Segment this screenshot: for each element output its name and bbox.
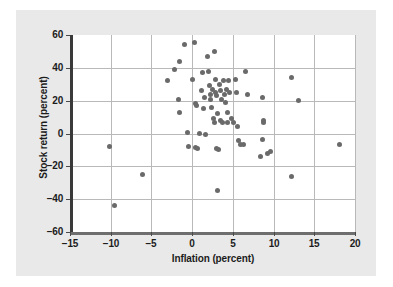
x-axis-tick-label: −10 [94,238,128,249]
data-point [258,154,263,159]
data-point [234,90,239,95]
y-axis-tick [66,68,70,69]
data-point [203,132,208,137]
x-axis-tick [233,232,234,236]
y-axis-tick [66,35,70,36]
data-point [245,92,250,97]
y-axis-tick-label: −60 [30,226,63,237]
data-point [223,100,228,105]
y-axis-tick [66,199,70,200]
y-axis-tick [66,232,70,233]
data-point [190,77,195,82]
data-point [197,131,202,136]
x-axis-tick [192,232,193,236]
data-point [213,77,218,82]
data-point [177,110,182,115]
y-axis-tick-label: −20 [30,160,63,171]
y-axis-tick-label: 0 [30,128,63,139]
data-point [226,78,231,83]
data-point [260,95,265,100]
x-axis-label: Inflation (percent) [70,253,356,264]
x-axis-tick [151,232,152,236]
data-point [289,174,294,179]
data-point [186,144,191,149]
x-axis-tick-label: 0 [175,238,209,249]
scatter-chart: Inflation (percent) Stock return (percen… [16,10,376,276]
data-point [233,77,238,82]
x-axis-tick [111,232,112,236]
data-point [208,92,213,97]
x-axis-tick [355,232,356,236]
data-point [205,54,210,59]
data-point [296,98,301,103]
y-axis-tick-label: 20 [30,95,63,106]
data-point [227,90,232,95]
y-axis-tick [66,101,70,102]
data-point [182,42,187,47]
data-point [140,172,145,177]
data-point [202,95,207,100]
x-axis-tick-label: 15 [297,238,331,249]
data-point [235,124,240,129]
data-point [216,147,221,152]
data-point [112,203,117,208]
data-point [212,120,217,125]
gridline-horizontal [70,68,355,69]
data-point [241,142,246,147]
x-axis-tick-label: −15 [53,238,87,249]
data-point [212,49,217,54]
data-point [200,70,205,75]
gridline-horizontal [70,134,355,135]
gridline-horizontal [70,101,355,102]
data-point [195,146,200,151]
x-axis-tick-label: 20 [338,238,372,249]
y-axis-tick-label: −40 [30,193,63,204]
y-axis-spine [70,35,73,233]
data-point [215,188,220,193]
x-axis-tick-label: 5 [216,238,250,249]
data-point [201,106,206,111]
data-point [289,75,294,80]
data-point [185,130,190,135]
x-axis-tick [70,232,71,236]
y-axis-tick [66,166,70,167]
gridline-horizontal [70,166,355,167]
data-point [192,40,197,45]
data-point [199,88,204,93]
data-point [243,69,248,74]
data-point [260,137,265,142]
gridline-horizontal [70,199,355,200]
data-point [206,69,211,74]
data-point [177,59,182,64]
plot-area [70,35,355,232]
gridline-vertical [355,35,356,232]
data-point [165,78,170,83]
y-axis-tick-label: 60 [30,29,63,40]
data-point [172,67,177,72]
x-axis-tick-label: 10 [257,238,291,249]
data-point [268,149,273,154]
data-point [215,111,220,116]
data-point [337,142,342,147]
y-axis-tick [66,134,70,135]
data-point [194,103,199,108]
figure-card: Inflation (percent) Stock return (percen… [16,10,376,276]
data-point [225,110,230,115]
y-axis-tick-label: 40 [30,62,63,73]
x-axis-tick [274,232,275,236]
data-point [261,120,266,125]
x-axis-tick [314,232,315,236]
data-point [209,105,214,110]
x-axis-tick-label: −5 [134,238,168,249]
data-point [220,120,225,125]
